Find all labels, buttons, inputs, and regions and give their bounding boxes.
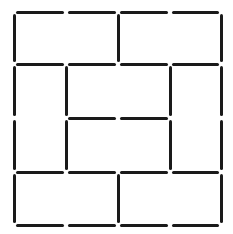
vertical-matchstick bbox=[169, 120, 172, 170]
vertical-matchstick bbox=[169, 66, 172, 116]
vertical-matchstick bbox=[117, 14, 120, 62]
horizontal-matchstick bbox=[172, 63, 219, 66]
vertical-matchstick bbox=[65, 120, 68, 170]
horizontal-matchstick bbox=[68, 171, 116, 174]
horizontal-matchstick bbox=[68, 11, 116, 14]
horizontal-matchstick bbox=[172, 171, 219, 174]
matchstick-diagram bbox=[0, 0, 233, 234]
horizontal-matchstick bbox=[120, 171, 168, 174]
vertical-matchstick bbox=[13, 14, 16, 62]
vertical-matchstick bbox=[117, 174, 120, 223]
horizontal-matchstick bbox=[16, 224, 64, 227]
vertical-matchstick bbox=[220, 66, 223, 116]
horizontal-matchstick bbox=[16, 171, 64, 174]
horizontal-matchstick bbox=[172, 11, 219, 14]
horizontal-matchstick bbox=[172, 224, 219, 227]
horizontal-matchstick bbox=[68, 224, 116, 227]
vertical-matchstick bbox=[220, 174, 223, 223]
vertical-matchstick bbox=[220, 120, 223, 170]
horizontal-matchstick bbox=[16, 63, 64, 66]
horizontal-matchstick bbox=[68, 117, 116, 120]
horizontal-matchstick bbox=[120, 11, 168, 14]
vertical-matchstick bbox=[13, 174, 16, 223]
horizontal-matchstick bbox=[16, 11, 64, 14]
vertical-matchstick bbox=[220, 14, 223, 62]
horizontal-matchstick bbox=[120, 117, 168, 120]
horizontal-matchstick bbox=[120, 224, 168, 227]
vertical-matchstick bbox=[13, 120, 16, 170]
horizontal-matchstick bbox=[68, 63, 116, 66]
vertical-matchstick bbox=[13, 66, 16, 116]
vertical-matchstick bbox=[65, 66, 68, 116]
horizontal-matchstick bbox=[120, 63, 168, 66]
